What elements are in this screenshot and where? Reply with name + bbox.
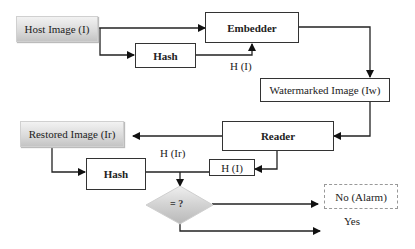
host-image-node: Host Image (I) [16,16,98,42]
watermark-flow-diagram: Host Image (I) Embedder Hash H (I) Water… [0,0,415,249]
hash-top-node: Hash [135,43,196,68]
edge-host-to-hash [100,28,134,55]
watermarked-image-label: Watermarked Image (Iw) [270,84,381,96]
h-i-box-label: H (I) [221,162,243,174]
restored-image-node: Restored Image (Ir) [20,121,124,147]
edge-label-h-ir: H (Ir) [160,147,185,159]
embedder-label: Embedder [227,22,277,34]
edge-hash-to-embedder [196,44,252,55]
edge-restored-to-hash [52,147,85,172]
hash-bottom-node: Hash [86,158,146,190]
decision-label: = ? [170,198,183,209]
hash-top-label: Hash [153,50,177,62]
edge-watermarked-to-reader [334,102,370,136]
edge-label-yes: Yes [344,215,360,227]
watermarked-image-node: Watermarked Image (Iw) [260,78,390,102]
h-i-box-node: H (I) [209,159,255,176]
restored-image-label: Restored Image (Ir) [29,128,116,140]
no-alarm-label: No (Alarm) [335,191,387,203]
edge-decision-yes [180,223,320,231]
edge-reader-to-hi [255,151,277,169]
reader-label: Reader [261,130,295,142]
edge-label-h-i: H (I) [230,60,252,72]
host-image-label: Host Image (I) [25,23,90,35]
hash-bottom-label: Hash [104,168,128,180]
embedder-node: Embedder [205,12,299,43]
no-alarm-node: No (Alarm) [324,184,398,209]
reader-node: Reader [222,121,334,151]
edge-embedder-to-watermarked [299,27,370,77]
